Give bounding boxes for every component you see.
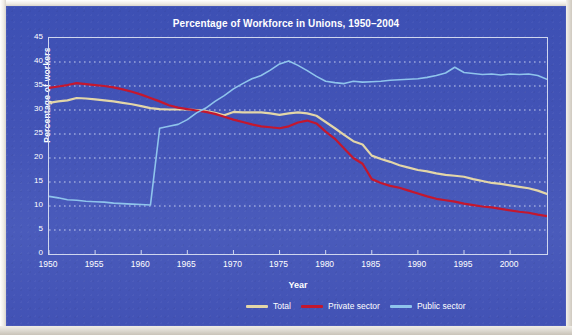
plot-area [48,37,548,255]
y-tick-label: 35 [17,80,43,89]
x-tick-label: 1955 [74,259,114,269]
x-tick-label: 1995 [443,259,483,269]
legend-item-private-sector[interactable]: Private sector [301,301,380,311]
legend-item-total[interactable]: Total [246,301,291,311]
legend-swatch-icon [390,305,412,308]
page-edge-top [0,0,572,6]
y-tick-label: 45 [17,32,43,41]
page-edge-left [0,0,6,335]
x-tick-label: 1965 [166,259,206,269]
x-tick-label: 1980 [305,259,345,269]
page-edge-bottom [0,326,572,335]
series-lines [49,61,547,216]
plot-svg [49,38,547,254]
x-tick-label: 1960 [120,259,160,269]
page-edge-right [566,0,572,335]
legend-label: Public sector [417,301,466,311]
legend-swatch-icon [246,305,268,308]
x-tick-label: 1985 [351,259,391,269]
x-axis-ticks [49,250,510,254]
chart-panel: Percentage of Workforce in Unions, 1950–… [6,6,566,326]
x-tick-label: 1950 [28,259,68,269]
y-tick-label: 25 [17,128,43,137]
series-line-public-sector [49,61,547,205]
x-tick-label: 2000 [489,259,529,269]
y-tick-label: 0 [17,248,43,257]
x-axis-title: Year [48,280,548,290]
series-line-total [49,98,547,194]
x-tick-label: 1975 [259,259,299,269]
y-tick-label: 15 [17,176,43,185]
y-tick-label: 40 [17,56,43,65]
y-tick-label: 10 [17,200,43,209]
x-tick-label: 1970 [212,259,252,269]
legend-label: Private sector [328,301,380,311]
legend-label: Total [273,301,291,311]
y-tick-label: 20 [17,152,43,161]
y-tick-label: 5 [17,224,43,233]
chart-page: Percentage of Workforce in Unions, 1950–… [0,0,572,335]
legend-item-public-sector[interactable]: Public sector [390,301,466,311]
x-tick-label: 1990 [397,259,437,269]
y-tick-label: 30 [17,104,43,113]
legend-swatch-icon [301,305,323,308]
chart-title: Percentage of Workforce in Unions, 1950–… [6,18,566,29]
chart-legend: TotalPrivate sectorPublic sector [246,301,466,311]
